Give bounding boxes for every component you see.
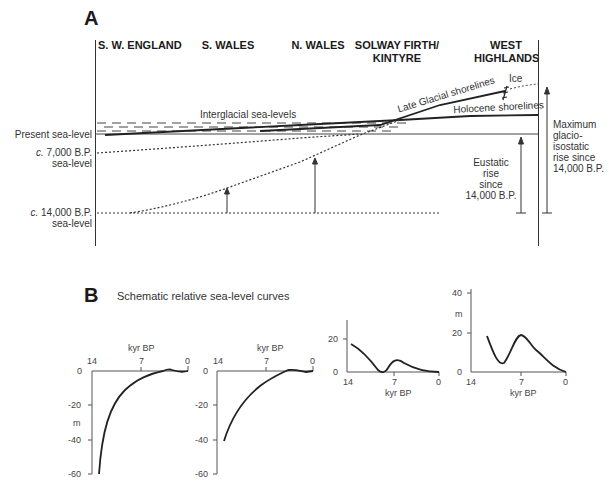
chart3-ytick: 0 <box>333 367 338 377</box>
chart1-ytick: 0 <box>77 366 82 376</box>
chart4-xlabel: kyr BP <box>510 388 537 398</box>
chart3-xtick: 14 <box>343 377 353 387</box>
chart2-ytick: -60 <box>195 469 208 479</box>
curve-4 <box>487 335 566 372</box>
chart3-xtick: 0 <box>436 377 441 387</box>
chart2-ytick: -20 <box>195 400 208 410</box>
chart3-xtick: 7 <box>392 377 397 387</box>
chart1-ytick: -40 <box>68 435 81 445</box>
panel-b-charts <box>0 0 609 483</box>
chart3-xlabel: kyr BP <box>385 388 412 398</box>
chart2-ytick: -40 <box>195 435 208 445</box>
chart1-xlabel: kyr BP <box>128 343 155 353</box>
chart1-xtick: 14 <box>87 356 97 366</box>
chart2-ytick: 0 <box>203 366 208 376</box>
chart1-xtick: 7 <box>139 356 144 366</box>
chart2-xtick: 7 <box>264 356 269 366</box>
chart1-xtick: 0 <box>185 356 190 366</box>
chart4-ytick: 40 <box>452 288 462 298</box>
chart4-xtick: 14 <box>466 377 476 387</box>
chart4-xtick: 7 <box>519 377 524 387</box>
curve-2 <box>224 370 313 441</box>
chart4-ytick: 0 <box>457 367 462 377</box>
chart1-ytick: -60 <box>68 469 81 479</box>
chart4-xtick: 0 <box>563 377 568 387</box>
chart1-ytick: -20 <box>68 400 81 410</box>
chart3-ytick: 20 <box>328 334 338 344</box>
curve-1 <box>99 369 188 474</box>
chart4-ytick: 20 <box>452 328 462 338</box>
chart2-xlabel: kyr BP <box>257 343 284 353</box>
chart4-ylabel: m <box>455 309 463 319</box>
chart1-ylabel: m <box>73 418 81 428</box>
chart2-xtick: 14 <box>213 356 223 366</box>
curve-3 <box>351 344 439 372</box>
chart2-xtick: 0 <box>310 356 315 366</box>
